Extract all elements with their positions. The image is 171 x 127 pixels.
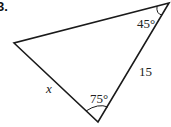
- side-label-x: x: [45, 81, 52, 96]
- side-label-15: 15: [139, 64, 152, 79]
- angle-label-75: 75°: [90, 91, 108, 106]
- triangle-diagram: 45° 15 x 75°: [0, 0, 171, 127]
- angle-arc-top-right: [157, 6, 162, 15]
- angle-label-45: 45°: [137, 16, 155, 31]
